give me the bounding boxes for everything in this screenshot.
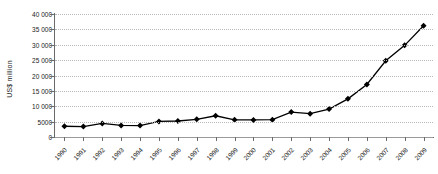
- data-point-marker: [118, 122, 124, 128]
- data-point-marker: [80, 124, 86, 130]
- x-axis-tick-mark: [121, 137, 122, 141]
- x-axis-tick-mark: [367, 137, 368, 141]
- gridline: [55, 106, 433, 107]
- data-point-marker: [137, 123, 143, 129]
- data-point-marker: [213, 113, 219, 119]
- gridline: [55, 76, 433, 77]
- x-axis-tick-mark: [235, 137, 236, 141]
- x-axis-tick-mark: [140, 137, 141, 141]
- y-axis-tick-mark: [50, 91, 55, 92]
- x-axis-tick-mark: [348, 137, 349, 141]
- gridline: [55, 14, 433, 15]
- y-axis-tick-mark: [50, 122, 55, 123]
- plot-area: [55, 14, 433, 137]
- y-axis-tick-mark: [50, 137, 55, 138]
- x-axis-tick-mark: [102, 137, 103, 141]
- x-axis-tick-mark: [272, 137, 273, 141]
- x-axis-tick-mark: [310, 137, 311, 141]
- line-chart: US$ million 0500010 00015 00020 00025 00…: [0, 0, 438, 174]
- y-axis-tick-mark: [50, 29, 55, 30]
- gridline: [55, 29, 433, 30]
- x-axis-tick-mark: [253, 137, 254, 141]
- x-axis-tick-mark: [291, 137, 292, 141]
- x-axis-tick-mark: [216, 137, 217, 141]
- y-axis-tick-mark: [50, 45, 55, 46]
- gridline: [55, 122, 433, 123]
- x-axis-tick-mark: [424, 137, 425, 141]
- gridline: [55, 137, 433, 138]
- data-point-marker: [307, 111, 313, 117]
- x-axis-tick-mark: [329, 137, 330, 141]
- gridline: [55, 60, 433, 61]
- x-axis-tick-mark: [386, 137, 387, 141]
- y-axis-title: US$ million: [6, 44, 13, 114]
- gridline: [55, 91, 433, 92]
- data-point-marker: [288, 109, 294, 115]
- x-axis-tick-mark: [178, 137, 179, 141]
- gridline: [55, 45, 433, 46]
- x-axis-tick-mark: [405, 137, 406, 141]
- x-axis-tick-mark: [197, 137, 198, 141]
- y-axis-tick-mark: [50, 106, 55, 107]
- x-axis-tick-mark: [83, 137, 84, 141]
- data-point-marker: [61, 123, 67, 129]
- y-axis-tick-mark: [50, 14, 55, 15]
- y-axis-tick-mark: [50, 76, 55, 77]
- y-axis-tick-mark: [50, 60, 55, 61]
- x-axis-tick-mark: [159, 137, 160, 141]
- x-axis-tick-mark: [64, 137, 65, 141]
- y-axis-tick-labels: 0500010 00015 00020 00025 00030 00035 00…: [14, 0, 52, 174]
